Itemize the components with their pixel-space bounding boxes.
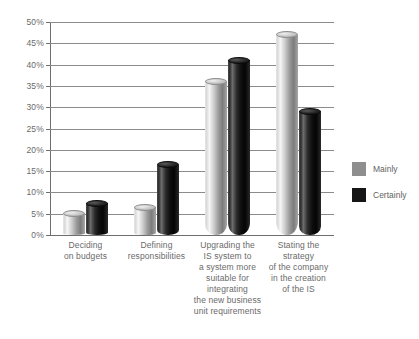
y-tick-label: 20% <box>26 146 50 155</box>
bar-body <box>299 111 321 235</box>
y-tick-label: 30% <box>26 103 50 112</box>
bar-body <box>276 35 298 235</box>
x-axis-label-line: Stating the <box>255 240 342 251</box>
bar-mainly <box>134 207 156 235</box>
bar-cap <box>86 200 108 207</box>
bar-mainly <box>276 35 298 235</box>
x-axis-label-line: strategy <box>255 251 342 262</box>
y-tick-label: 5% <box>31 209 50 218</box>
legend-label-mainly: Mainly <box>373 165 398 174</box>
y-tick-label: 35% <box>26 82 50 91</box>
bar-chart: 0%5%10%15%20%25%30%35%40%45%50% Deciding… <box>0 0 419 339</box>
x-axis-label-line: of the IS <box>255 284 342 295</box>
bar-body <box>205 82 227 235</box>
legend-item-certainly: Certainly <box>352 188 418 202</box>
bar-body <box>228 60 250 235</box>
bar-body <box>134 207 156 235</box>
bar-group <box>50 22 121 235</box>
legend-item-mainly: Mainly <box>352 162 418 176</box>
legend-swatch-certainly <box>352 188 366 202</box>
bar-certainly <box>86 203 108 235</box>
x-axis-label-line: in the creation <box>255 273 342 284</box>
bar-group <box>263 22 334 235</box>
bar-certainly <box>299 111 321 235</box>
x-axis-label-line: unit requirements <box>184 306 271 317</box>
chart-legend: Mainly Certainly <box>352 162 418 214</box>
bar-mainly <box>63 214 85 235</box>
y-tick-label: 10% <box>26 188 50 197</box>
legend-label-certainly: Certainly <box>373 191 407 200</box>
bar-cap <box>228 57 250 64</box>
x-axis-labels: Decidingon budgetsDefiningresponsibiliti… <box>50 240 334 335</box>
bar-certainly <box>157 165 179 235</box>
x-axis-label: Stating thestrategyof the companyin the … <box>255 240 342 295</box>
bar-cap <box>299 108 321 115</box>
y-tick-label: 25% <box>26 124 50 133</box>
bar-body <box>86 203 108 235</box>
bar-mainly <box>205 82 227 235</box>
bar-certainly <box>228 60 250 235</box>
plot-area: 0%5%10%15%20%25%30%35%40%45%50% <box>50 22 334 235</box>
y-tick-label: 40% <box>26 60 50 69</box>
bar-group <box>192 22 263 235</box>
bar-cap <box>134 204 156 211</box>
bar-body <box>157 165 179 235</box>
y-tick-label: 50% <box>26 18 50 27</box>
y-tick-label: 15% <box>26 167 50 176</box>
x-axis-label-line: of the company <box>255 262 342 273</box>
y-tick-label: 45% <box>26 39 50 48</box>
gridline <box>50 235 334 236</box>
legend-swatch-mainly <box>352 162 366 176</box>
y-tick-label: 0% <box>31 231 50 240</box>
x-axis-label-line: the new business <box>184 295 271 306</box>
bar-group <box>121 22 192 235</box>
